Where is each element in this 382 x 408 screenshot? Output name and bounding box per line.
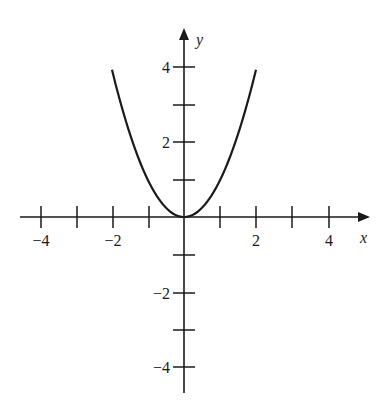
- y-tick-label: 2: [162, 134, 170, 151]
- x-axis-label: x: [359, 229, 367, 246]
- parabola-chart: −4 −2 2 4 4 2 −2 −4 x y: [0, 0, 382, 408]
- y-tick-label: −2: [153, 285, 170, 302]
- y-tick-label: 4: [162, 59, 170, 76]
- x-tick-label: −2: [104, 232, 121, 249]
- x-tick-label: 4: [325, 232, 333, 249]
- y-axis-arrow-icon: [179, 28, 189, 40]
- y-axis-label: y: [194, 31, 204, 49]
- x-tick-label: −4: [32, 232, 49, 249]
- x-axis-arrow-icon: [358, 212, 370, 222]
- x-tick-label: 2: [252, 232, 260, 249]
- y-tick-label: −4: [153, 359, 170, 376]
